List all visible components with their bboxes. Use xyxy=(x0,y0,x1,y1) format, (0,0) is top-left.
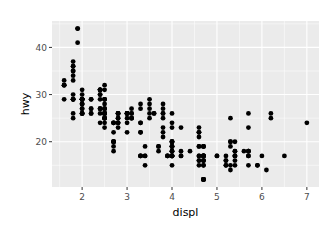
data-point xyxy=(147,116,152,121)
x-axis: 234567 xyxy=(79,187,309,202)
data-point xyxy=(62,97,67,102)
data-point xyxy=(111,149,116,154)
data-point xyxy=(197,158,202,163)
data-point xyxy=(161,116,166,121)
data-point xyxy=(170,111,175,116)
data-point xyxy=(125,120,130,125)
data-point xyxy=(62,83,67,88)
data-point xyxy=(147,102,152,107)
data-point xyxy=(242,149,247,154)
data-point xyxy=(161,111,166,116)
data-point xyxy=(188,149,193,154)
plot-panel xyxy=(52,21,319,187)
data-point xyxy=(197,153,202,158)
data-point xyxy=(264,168,269,173)
data-point xyxy=(125,116,130,121)
data-point xyxy=(98,92,103,97)
data-point xyxy=(138,120,143,125)
data-point xyxy=(71,59,76,64)
data-point xyxy=(75,26,80,31)
data-point xyxy=(138,130,143,135)
data-point xyxy=(233,139,238,144)
data-point xyxy=(282,153,287,158)
data-point xyxy=(71,73,76,78)
data-point xyxy=(80,106,85,111)
data-point xyxy=(228,144,233,149)
data-point xyxy=(111,144,116,149)
data-point xyxy=(102,125,107,130)
x-tick-label: 3 xyxy=(124,192,130,202)
data-point xyxy=(233,163,238,168)
data-point xyxy=(269,111,274,116)
x-axis-title: displ xyxy=(173,206,199,219)
data-point xyxy=(71,97,76,102)
data-point xyxy=(138,153,143,158)
data-point xyxy=(143,144,148,149)
data-point xyxy=(102,120,107,125)
data-point xyxy=(224,153,229,158)
data-point xyxy=(80,97,85,102)
data-point xyxy=(62,78,67,83)
data-point xyxy=(111,139,116,144)
data-point xyxy=(147,97,152,102)
data-point xyxy=(269,116,274,121)
data-point xyxy=(215,153,220,158)
data-point xyxy=(201,144,206,149)
data-point xyxy=(116,116,121,121)
data-point xyxy=(228,116,233,121)
data-point xyxy=(246,153,251,158)
data-point xyxy=(111,120,116,125)
data-point xyxy=(228,139,233,144)
data-point xyxy=(98,97,103,102)
data-point xyxy=(179,149,184,154)
data-point xyxy=(161,135,166,140)
data-point xyxy=(138,106,143,111)
data-point xyxy=(129,111,134,116)
data-point xyxy=(161,125,166,130)
data-point xyxy=(228,168,233,173)
data-point xyxy=(201,177,206,182)
data-point xyxy=(233,149,238,154)
data-point xyxy=(116,120,121,125)
data-point xyxy=(71,69,76,74)
y-tick-label: 40 xyxy=(36,43,48,53)
data-point xyxy=(98,87,103,92)
data-point xyxy=(147,106,152,111)
data-point xyxy=(197,135,202,140)
data-point xyxy=(102,87,107,92)
data-point xyxy=(102,116,107,121)
data-point xyxy=(71,64,76,69)
data-point xyxy=(224,163,229,168)
x-tick-label: 5 xyxy=(214,192,220,202)
scatter-chart: 234567 203040 displ hwy xyxy=(0,0,333,234)
data-point xyxy=(246,163,251,168)
data-point xyxy=(170,153,175,158)
data-point xyxy=(75,40,80,45)
data-point xyxy=(71,111,76,116)
data-point xyxy=(197,144,202,149)
x-tick-label: 4 xyxy=(169,192,175,202)
data-point xyxy=(71,92,76,97)
data-point xyxy=(89,111,94,116)
data-point xyxy=(165,153,170,158)
data-point xyxy=(89,97,94,102)
data-point xyxy=(143,163,148,168)
data-point xyxy=(161,106,166,111)
data-point xyxy=(156,144,161,149)
data-point xyxy=(98,106,103,111)
data-point xyxy=(246,125,251,130)
data-point xyxy=(197,130,202,135)
data-point xyxy=(71,78,76,83)
data-point xyxy=(170,139,175,144)
x-tick-label: 2 xyxy=(79,192,85,202)
data-point xyxy=(102,102,107,107)
data-point xyxy=(255,163,260,168)
data-point xyxy=(170,120,175,125)
data-point xyxy=(116,111,121,116)
data-point xyxy=(170,125,175,130)
data-point xyxy=(161,130,166,135)
data-point xyxy=(179,125,184,130)
data-point xyxy=(170,163,175,168)
data-point xyxy=(102,111,107,116)
data-point xyxy=(304,120,309,125)
